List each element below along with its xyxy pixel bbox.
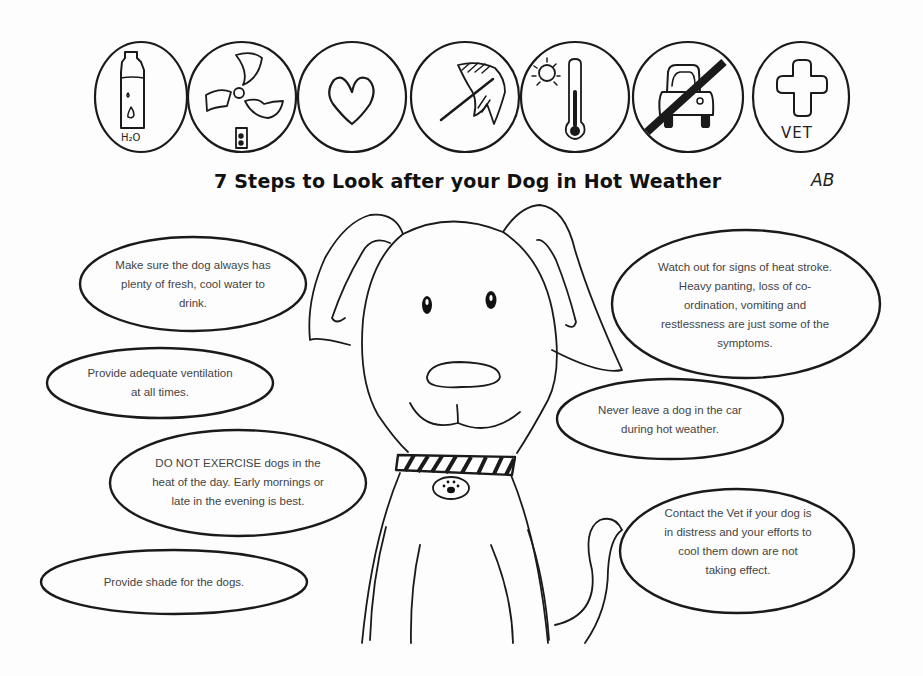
water-bottle-label: H₂O [121,132,140,143]
dog-illustration [309,205,622,643]
author-initials: AB [811,170,834,190]
page-title: 7 Steps to Look after your Dog in Hot We… [214,170,721,192]
tip-water: Make sure the dog always has plenty of f… [100,245,286,323]
icon-row [95,42,849,152]
fan-icon [188,42,296,152]
tip-heatstroke-text: Watch out for signs of heat stroke. Heav… [654,258,836,353]
heart-icon [298,42,406,152]
tip-car: Never leave a dog in the car during hot … [580,398,760,442]
tip-car-text: Never leave a dog in the car during hot … [594,401,746,439]
dog-right-ear [503,205,622,371]
paw-tag [433,477,469,499]
tip-shade: Provide shade for the dogs. [60,565,288,599]
tip-heatstroke: Watch out for signs of heat stroke. Heav… [640,250,850,360]
thermometer-sun-icon [521,42,629,152]
tip-exercise-text: DO NOT EXERCISE dogs in the heat of the … [147,454,329,511]
tip-vet: Contact the Vet if your dog is in distre… [648,496,828,588]
tip-ventilation-text: Provide adequate ventilation at all time… [82,364,238,402]
no-car-icon [633,42,743,152]
tip-vet-text: Contact the Vet if your dog is in distre… [662,504,814,580]
tip-shade-text: Provide shade for the dogs. [104,573,245,592]
dog-head [362,221,557,453]
dog-tail [555,519,622,643]
dog-collar [396,455,515,475]
dog-nose [427,362,500,387]
dog-mouth [410,403,520,428]
tip-exercise: DO NOT EXERCISE dogs in the heat of the … [133,442,343,522]
vet-label: VET [781,124,813,142]
dog-left-ear [309,215,403,345]
tip-ventilation: Provide adequate ventilation at all time… [68,356,252,410]
umbrella-icon [411,42,519,152]
tip-water-text: Make sure the dog always has plenty of f… [114,256,272,313]
water-bottle-icon [95,42,187,152]
